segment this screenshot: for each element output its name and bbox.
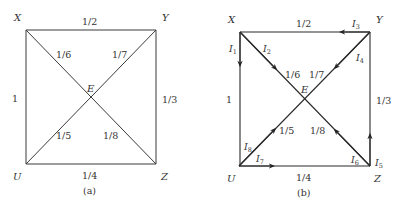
- edge-ue-value: 1/5: [56, 130, 71, 141]
- node-u-label: U: [227, 173, 236, 184]
- edge-ue-value: 1/5: [279, 125, 294, 136]
- current-i2-label: I2: [262, 43, 271, 56]
- node-u-label: U: [13, 171, 22, 182]
- edge-yz-value: 1/3: [162, 94, 177, 105]
- edge-xu-value: 1: [226, 94, 232, 105]
- caption-b: (b): [297, 187, 311, 198]
- edge-ye-value: 1/7: [112, 49, 127, 60]
- current-i6-label: I6: [350, 154, 359, 167]
- edge-xe-value: 1/6: [285, 69, 300, 80]
- edge-uz-value: 1/4: [296, 172, 311, 183]
- node-y-label: Y: [162, 12, 170, 23]
- current-i7-label: I7: [255, 153, 264, 166]
- current-i5-label: I5: [374, 157, 383, 170]
- node-z-label: Z: [373, 173, 382, 184]
- edge-xu-value: 1: [12, 93, 18, 104]
- resistor-network-figure: X Y U Z E 1/2 1 1/3 1/4 1/6 1/7 1/5 1/8 …: [0, 0, 400, 212]
- caption-a: (a): [83, 185, 96, 196]
- diagram-a: X Y U Z E 1/2 1 1/3 1/4 1/6 1/7 1/5 1/8 …: [12, 12, 177, 196]
- current-i3-label: I3: [351, 18, 360, 31]
- edge-yz-value: 1/3: [376, 95, 391, 106]
- current-i1-label: I1: [228, 43, 237, 56]
- node-x-label: X: [13, 12, 22, 23]
- diagram-b: X Y U Z E 1/2 1 1/3 1/4 1/6 1/7 1/5 1/8 …: [226, 14, 391, 198]
- node-y-label: Y: [376, 14, 384, 25]
- current-i4-label: I4: [355, 52, 364, 65]
- edge-ye-value: 1/7: [309, 69, 324, 80]
- edge-uz-value: 1/4: [82, 170, 97, 181]
- edge-xe-value: 1/6: [56, 49, 71, 60]
- current-i4-arrow: [336, 32, 370, 67]
- edge-ze-value: 1/8: [310, 125, 325, 136]
- current-i8-label: I8: [243, 141, 252, 154]
- node-e-label: E: [86, 83, 95, 94]
- edge-ze-value: 1/8: [103, 130, 118, 141]
- edge-xy-value: 1/2: [82, 16, 97, 27]
- edge-xy-value: 1/2: [296, 18, 311, 29]
- node-e-label: E: [300, 84, 309, 95]
- node-z-label: Z: [160, 171, 169, 182]
- node-x-label: X: [227, 14, 236, 25]
